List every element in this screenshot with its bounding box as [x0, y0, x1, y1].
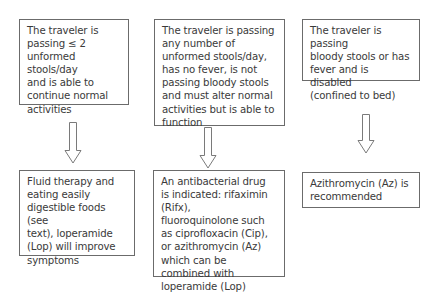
treatment-severe-box: Azithromycin (Az) is recommended	[302, 172, 420, 208]
treatment-severe-text: Azithromycin (Az) is recommended	[310, 177, 413, 203]
treatment-moderate-box: An antibacterial drug is indicated: rifa…	[153, 170, 285, 277]
condition-severe-text: The traveler is passing bloody stools or…	[310, 24, 413, 103]
condition-moderate-text: The traveler is passing any number of un…	[162, 24, 278, 129]
condition-mild-box: The traveler is passing ≤ 2 unformed sto…	[19, 19, 129, 105]
down-arrow-icon	[357, 114, 375, 154]
treatment-mild-text: Fluid therapy and eating easily digestib…	[27, 175, 128, 267]
condition-moderate-box: The traveler is passing any number of un…	[154, 19, 285, 126]
treatment-moderate-text: An antibacterial drug is indicated: rifa…	[161, 175, 278, 293]
down-arrow-icon	[199, 127, 217, 169]
treatment-mild-box: Fluid therapy and eating easily digestib…	[19, 170, 135, 256]
down-arrow-icon	[64, 122, 82, 164]
condition-mild-text: The traveler is passing ≤ 2 unformed sto…	[27, 24, 122, 116]
condition-severe-box: The traveler is passing bloody stools or…	[302, 19, 420, 81]
